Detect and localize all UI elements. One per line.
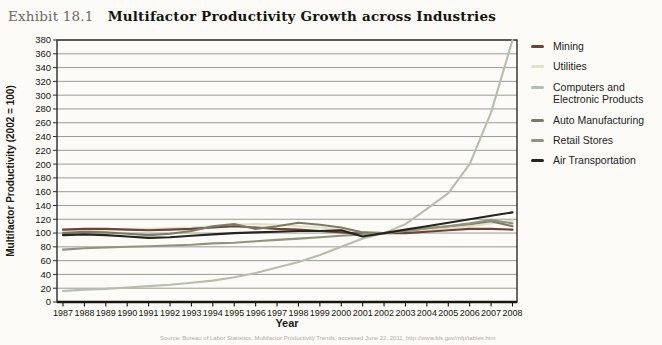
legend-swatch-air-transportation xyxy=(531,159,544,162)
svg-text:2005: 2005 xyxy=(438,308,458,318)
svg-text:1992: 1992 xyxy=(160,308,180,318)
svg-text:1991: 1991 xyxy=(139,308,159,318)
svg-text:340: 340 xyxy=(35,62,51,73)
svg-text:0: 0 xyxy=(46,296,51,307)
svg-text:320: 320 xyxy=(35,76,51,87)
svg-text:1994: 1994 xyxy=(203,308,223,318)
legend-item-computers-and-electronic-products: Computers and Electronic Products xyxy=(531,81,659,106)
series-line-computers-and-electronic-products xyxy=(63,40,513,291)
legend-label: Utilities xyxy=(553,60,587,72)
svg-text:2008: 2008 xyxy=(502,308,522,318)
source-note: Source: Bureau of Labor Statistics, Mult… xyxy=(160,335,655,341)
legend-item-auto-manufacturing: Auto Manufacturing xyxy=(531,114,659,126)
svg-text:280: 280 xyxy=(35,103,51,114)
svg-text:240: 240 xyxy=(35,131,51,142)
svg-text:1993: 1993 xyxy=(181,308,201,318)
legend-label: Auto Manufacturing xyxy=(553,114,644,126)
svg-text:200: 200 xyxy=(35,159,51,170)
svg-text:1987: 1987 xyxy=(53,308,73,318)
svg-text:1988: 1988 xyxy=(74,308,94,318)
exhibit-figure: Exhibit 18.1Multifactor Productivity Gro… xyxy=(0,0,662,345)
legend-item-mining: Mining xyxy=(531,40,659,52)
legend-item-utilities: Utilities xyxy=(531,60,659,72)
legend-swatch-mining xyxy=(531,45,544,48)
svg-text:100: 100 xyxy=(35,227,51,238)
svg-text:160: 160 xyxy=(35,186,51,197)
legend-label: Computers and Electronic Products xyxy=(553,81,659,106)
legend-swatch-retail-stores xyxy=(531,139,544,142)
svg-text:140: 140 xyxy=(35,200,51,211)
svg-text:180: 180 xyxy=(35,172,51,183)
legend-swatch-utilities xyxy=(531,65,544,68)
svg-text:120: 120 xyxy=(35,214,51,225)
svg-text:20: 20 xyxy=(40,283,51,294)
x-axis-title: Year xyxy=(237,317,337,329)
legend: MiningUtilitiesComputers and Electronic … xyxy=(531,40,659,167)
legend-label: Retail Stores xyxy=(553,134,613,146)
svg-text:2006: 2006 xyxy=(460,308,480,318)
svg-text:380: 380 xyxy=(35,34,51,45)
legend-swatch-computers-and-electronic-products xyxy=(531,86,544,89)
legend-label: Mining xyxy=(553,40,584,52)
legend-item-air-transportation: Air Transportation xyxy=(531,154,659,166)
svg-text:360: 360 xyxy=(35,48,51,59)
svg-text:2004: 2004 xyxy=(417,308,437,318)
legend-label: Air Transportation xyxy=(553,154,636,166)
svg-text:260: 260 xyxy=(35,117,51,128)
svg-text:2002: 2002 xyxy=(374,308,394,318)
svg-text:1990: 1990 xyxy=(117,308,137,318)
svg-text:2003: 2003 xyxy=(395,308,415,318)
svg-text:220: 220 xyxy=(35,145,51,156)
svg-text:2001: 2001 xyxy=(353,308,373,318)
svg-text:1989: 1989 xyxy=(96,308,116,318)
legend-item-retail-stores: Retail Stores xyxy=(531,134,659,146)
svg-text:40: 40 xyxy=(40,269,51,280)
y-axis-title: Multifactor Productivity (2002 = 100) xyxy=(5,41,19,301)
svg-text:300: 300 xyxy=(35,90,51,101)
legend-swatch-auto-manufacturing xyxy=(531,119,544,122)
svg-text:60: 60 xyxy=(40,255,51,266)
svg-text:2007: 2007 xyxy=(481,308,501,318)
svg-text:80: 80 xyxy=(40,241,51,252)
